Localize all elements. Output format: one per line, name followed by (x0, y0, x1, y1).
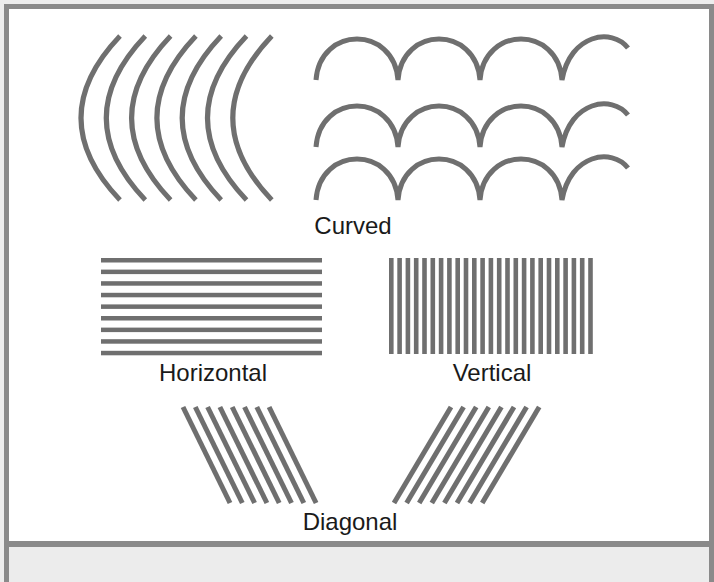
horizontal-line (101, 328, 322, 333)
diagonal-line (220, 407, 267, 503)
horizontal-line (101, 281, 322, 286)
diagonal-line (208, 407, 255, 503)
curved-arc (81, 36, 120, 200)
diagonal-lines-left-group (183, 407, 316, 503)
curved-arc (157, 36, 196, 200)
vertical-line (563, 258, 568, 354)
label-curved: Curved (314, 212, 391, 239)
vertical-line (588, 258, 593, 354)
vertical-line (530, 258, 535, 354)
vertical-line (522, 258, 527, 354)
vertical-line (489, 258, 494, 354)
horizontal-lines-group (101, 258, 322, 355)
vertical-line (555, 258, 560, 354)
vertical-line (414, 258, 419, 354)
curved-arc (208, 36, 247, 200)
vertical-line (547, 258, 552, 354)
horizontal-line (101, 304, 322, 309)
vertical-line (472, 258, 477, 354)
vertical-line (514, 258, 519, 354)
vertical-line (389, 258, 394, 354)
diagonal-line (269, 407, 316, 503)
label-horizontal: Horizontal (159, 359, 267, 386)
vertical-line (431, 258, 436, 354)
horizontal-line (101, 270, 322, 275)
vertical-line (406, 258, 411, 354)
vertical-line (580, 258, 585, 354)
line-types-diagram: Curved Horizontal Vertical Diagonal (0, 0, 714, 582)
horizontal-line (101, 351, 322, 356)
diagonal-line (232, 407, 279, 503)
diagonal-line (195, 407, 242, 503)
horizontal-line (101, 316, 322, 321)
curved-arc (182, 36, 221, 200)
vertical-line (505, 258, 510, 354)
vertical-line (397, 258, 402, 354)
curved-arcs-group (81, 36, 272, 200)
vertical-line (447, 258, 452, 354)
curved-arch-row (316, 104, 628, 147)
label-diagonal: Diagonal (303, 508, 398, 535)
vertical-lines-group (389, 258, 593, 354)
vertical-line (480, 258, 485, 354)
horizontal-line (101, 258, 322, 263)
vertical-line (464, 258, 469, 354)
curved-arc (106, 36, 145, 200)
curved-arches-group (316, 37, 628, 200)
vertical-line (572, 258, 577, 354)
horizontal-line (101, 339, 322, 344)
curved-arch-row (316, 37, 628, 80)
vertical-line (422, 258, 427, 354)
curved-arc (233, 36, 272, 200)
diagonal-line (183, 407, 230, 503)
vertical-line (455, 258, 460, 354)
vertical-line (497, 258, 502, 354)
diagonal-line (257, 407, 304, 503)
curved-arch-row (316, 157, 628, 200)
curved-arc (132, 36, 171, 200)
horizontal-line (101, 293, 322, 298)
vertical-line (439, 258, 444, 354)
vertical-line (538, 258, 543, 354)
label-vertical: Vertical (453, 359, 532, 386)
diagonal-lines-right-group (394, 407, 539, 503)
diagonal-line (245, 407, 292, 503)
